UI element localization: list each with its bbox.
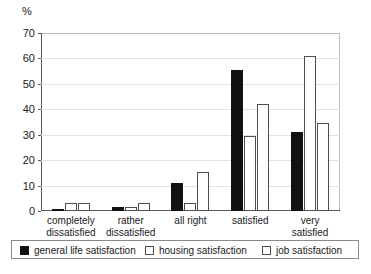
y-axis-tick-mark xyxy=(38,211,41,212)
bar xyxy=(291,132,303,211)
bar-group xyxy=(41,33,101,211)
bar xyxy=(231,70,243,211)
bar xyxy=(257,104,269,211)
x-axis-category-label: rather dissatisfied xyxy=(101,215,161,238)
bar xyxy=(184,203,196,211)
bar-group xyxy=(101,33,161,211)
x-axis-category-label: very satisfied xyxy=(280,215,340,238)
chart-figure: % 010203040506070 completely dissatisfie… xyxy=(0,0,371,274)
y-axis-unit-label: % xyxy=(22,6,32,17)
x-axis-category-label: completely dissatisfied xyxy=(41,215,101,238)
legend-label: job satisfaction xyxy=(276,245,342,256)
y-axis-tick-label: 10 xyxy=(5,181,35,192)
bar xyxy=(304,56,316,211)
chart-legend: general life satisfactionhousing satisfa… xyxy=(11,240,359,259)
legend-label: housing satisfaction xyxy=(159,245,247,256)
y-axis-tick-label: 70 xyxy=(5,28,35,39)
y-axis-tick-label: 40 xyxy=(5,104,35,115)
legend-item: general life satisfaction xyxy=(20,241,136,260)
y-axis-tick-label: 60 xyxy=(5,53,35,64)
bar xyxy=(317,123,329,211)
bar-group xyxy=(220,33,280,211)
bar xyxy=(112,207,124,211)
y-axis-tick-label: 0 xyxy=(5,206,35,217)
legend-item: housing satisfaction xyxy=(145,241,247,260)
legend-swatch-icon xyxy=(262,246,271,255)
bar-group xyxy=(280,33,340,211)
x-axis-category-label: satisfied xyxy=(220,215,280,227)
bar xyxy=(197,172,209,211)
legend-item: job satisfaction xyxy=(262,241,342,260)
bar xyxy=(171,183,183,211)
legend-swatch-icon xyxy=(20,246,29,255)
x-axis-category-label: all right xyxy=(161,215,221,227)
bar xyxy=(244,136,256,211)
bar xyxy=(78,203,90,211)
plot-area xyxy=(41,33,340,211)
bar xyxy=(52,209,64,211)
bar-group xyxy=(161,33,221,211)
legend-label: general life satisfaction xyxy=(34,245,136,256)
bar xyxy=(125,207,137,211)
y-axis-tick-label: 50 xyxy=(5,79,35,90)
y-axis-tick-label: 20 xyxy=(5,155,35,166)
y-axis-tick-label: 30 xyxy=(5,130,35,141)
legend-swatch-icon xyxy=(145,246,154,255)
bar xyxy=(65,203,77,211)
bar xyxy=(138,203,150,211)
